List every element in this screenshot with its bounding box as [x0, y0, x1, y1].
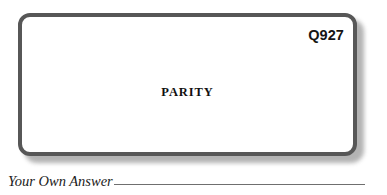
- answer-write-in-rule[interactable]: [114, 184, 365, 185]
- clue-word: PARITY: [22, 86, 353, 99]
- puzzle-page: Q927 PARITY Your Own Answer: [0, 0, 387, 195]
- question-card-inner: Q927 PARITY: [22, 17, 353, 152]
- answer-label: Your Own Answer: [8, 173, 113, 189]
- answer-row: Your Own Answer: [8, 173, 380, 193]
- question-number-badge: Q927: [308, 28, 344, 43]
- question-card: Q927 PARITY: [18, 13, 357, 156]
